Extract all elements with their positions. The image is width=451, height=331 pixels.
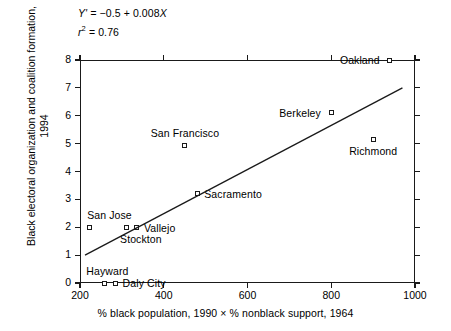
- y-axis-tick-label: 3: [49, 192, 71, 204]
- x-axis-tick: [163, 55, 164, 60]
- y-axis-tick-label: 0: [49, 276, 71, 288]
- data-point-marker: [371, 137, 376, 142]
- y-axis-tick: [75, 171, 80, 172]
- y-axis-tick: [75, 227, 80, 228]
- data-point-marker: [182, 143, 187, 148]
- y-axis-tick: [75, 282, 80, 283]
- data-point-label: Sacramento: [204, 188, 262, 200]
- y-axis-tick: [415, 143, 420, 144]
- x-axis-tick: [414, 283, 415, 288]
- data-point-marker: [87, 225, 92, 230]
- data-point-label: San Jose: [87, 209, 132, 221]
- y-axis-tick: [415, 87, 420, 88]
- data-point-marker: [387, 58, 392, 63]
- y-axis-tick-label: 2: [49, 220, 71, 232]
- equation-line: Y' = −0.5 + 0.008X: [78, 6, 167, 21]
- y-axis-tick: [415, 227, 420, 228]
- y-axis-tick: [75, 143, 80, 144]
- y-axis-tick: [75, 115, 80, 116]
- x-axis-tick: [331, 55, 332, 60]
- x-axis-tick: [247, 283, 248, 288]
- data-point-label: Daly City: [123, 277, 166, 289]
- equation-rhs: −0.5 + 0.008: [100, 7, 160, 19]
- x-axis-tick-label: 1000: [392, 289, 438, 301]
- data-point-label: Richmond: [349, 145, 397, 157]
- regression-equation-annotation: Y' = −0.5 + 0.008X r2 = 0.76: [78, 6, 167, 40]
- y-axis-tick: [415, 171, 420, 172]
- y-axis-tick: [75, 255, 80, 256]
- y-axis-tick-label: 1: [49, 248, 71, 260]
- plot-frame: [80, 60, 415, 283]
- x-axis-tick-label: 800: [308, 289, 354, 301]
- x-axis-tick-label: 400: [141, 289, 187, 301]
- data-point-marker: [124, 225, 129, 230]
- y-axis-tick: [415, 282, 420, 283]
- data-point-label: Berkeley: [279, 107, 321, 119]
- data-point-marker: [134, 225, 139, 230]
- equation-y-symbol: Y' =: [78, 7, 96, 19]
- data-point-label: Oakland: [340, 54, 380, 66]
- x-axis-tick: [331, 283, 332, 288]
- scatter-plot-figure: Y' = −0.5 + 0.008X r2 = 0.76 20040060080…: [0, 0, 451, 331]
- y-axis-tick-label: 6: [49, 109, 71, 121]
- data-point-marker: [329, 110, 334, 115]
- r-squared-value: = 0.76: [89, 26, 119, 38]
- x-axis-tick-label: 600: [225, 289, 271, 301]
- x-axis-title: % black population, 1990 × % nonblack su…: [0, 307, 451, 319]
- x-axis-tick: [79, 283, 80, 288]
- y-axis-tick: [415, 255, 420, 256]
- y-axis-tick-label: 8: [49, 53, 71, 65]
- data-point-label: San Francisco: [151, 127, 219, 139]
- y-axis-tick: [75, 87, 80, 88]
- y-axis-tick-label: 4: [49, 165, 71, 177]
- x-axis-tick-label: 200: [57, 289, 103, 301]
- data-point-label: Stockton: [120, 233, 162, 245]
- data-point-marker: [195, 191, 200, 196]
- y-axis-tick: [415, 199, 420, 200]
- y-axis-tick: [75, 59, 80, 60]
- y-axis-tick-label: 7: [49, 81, 71, 93]
- x-axis-tick: [247, 55, 248, 60]
- data-point-marker: [102, 281, 107, 286]
- equation-x-symbol: X: [160, 7, 167, 19]
- y-axis-tick: [415, 115, 420, 116]
- data-point-label: Vallejo: [144, 222, 175, 234]
- y-axis-tick: [415, 59, 420, 60]
- r-exponent: 2: [82, 24, 86, 33]
- data-point-marker: [113, 281, 118, 286]
- y-axis-tick: [75, 199, 80, 200]
- data-point-label: Hayward: [86, 265, 128, 277]
- r-squared-line: r2 = 0.76: [78, 21, 167, 40]
- y-axis-tick-label: 5: [49, 137, 71, 149]
- y-axis-title: Black electoral organization and coaliti…: [25, 6, 51, 246]
